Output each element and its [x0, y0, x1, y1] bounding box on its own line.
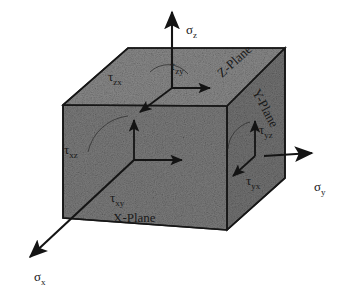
sigma-x-symbol: σ	[34, 269, 41, 284]
sigma-y-symbol: σ	[314, 179, 321, 194]
sigma-x-label: σx	[34, 269, 46, 287]
sigma-x-subscript: x	[41, 277, 46, 287]
figure-canvas: σz σy σx τzx τzy Z-Plane τxz	[0, 0, 354, 295]
sigma-y-subscript: y	[321, 187, 326, 197]
x-plane-label: X-Plane	[113, 210, 156, 225]
tau-yx-subscript: yx	[251, 181, 261, 191]
sigma-z-symbol: σ	[186, 22, 193, 37]
stress-cube	[63, 48, 285, 230]
sigma-z-subscript: z	[193, 30, 197, 40]
tau-zy-subscript: zy	[175, 66, 184, 76]
tau-zx-subscript: zx	[113, 77, 122, 87]
sigma-y-label: σy	[314, 179, 326, 197]
sigma-z-label: σz	[186, 22, 197, 40]
tau-yz-subscript: yz	[264, 130, 273, 140]
tau-xy-subscript: xy	[115, 198, 125, 208]
tau-xz-subscript: xz	[69, 150, 78, 160]
